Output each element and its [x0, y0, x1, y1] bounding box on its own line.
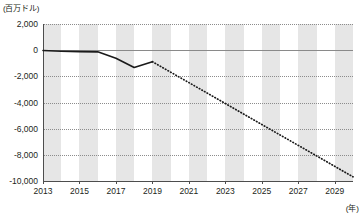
x-tick-label: 2027: [289, 186, 308, 196]
x-tick-mark: [79, 181, 80, 184]
x-tick-label: 2015: [70, 186, 89, 196]
data-series-layer: [0, 0, 362, 214]
x-tick-label: 2023: [216, 186, 235, 196]
x-tick-mark: [116, 181, 117, 184]
x-tick-mark: [225, 181, 226, 184]
x-tick-label: 2013: [34, 186, 53, 196]
x-tick-mark: [298, 181, 299, 184]
x-tick-label: 2025: [252, 186, 271, 196]
x-axis-unit-label: (年): [346, 202, 359, 213]
series-actual-line: [43, 51, 152, 68]
x-tick-label: 2021: [179, 186, 198, 196]
x-tick-mark: [189, 181, 190, 184]
x-tick-mark: [335, 181, 336, 184]
x-tick-label: 2029: [325, 186, 344, 196]
x-tick-mark: [152, 181, 153, 184]
x-tick-mark: [262, 181, 263, 184]
series-forecast-line: [152, 62, 353, 177]
x-tick-label: 2017: [106, 186, 125, 196]
chart-container: (百万ドル) 2,0000-2,000-4,000-6,000-8,000-10…: [0, 0, 362, 214]
x-tick-label: 2019: [143, 186, 162, 196]
x-tick-mark: [43, 181, 44, 184]
